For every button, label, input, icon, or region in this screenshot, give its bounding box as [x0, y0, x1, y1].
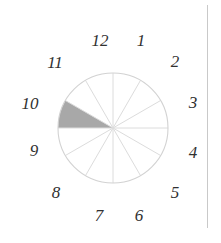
hour-label-6: 6 — [135, 207, 144, 224]
clock-sector-figure: 121234567891011 — [0, 0, 221, 243]
hour-label-7: 7 — [95, 207, 104, 224]
clock-group — [58, 73, 168, 183]
clock-diagram — [0, 0, 221, 243]
hour-label-1: 1 — [137, 32, 146, 49]
sector-spoke — [113, 80, 141, 128]
hour-label-8: 8 — [52, 184, 61, 201]
hour-label-4: 4 — [189, 144, 198, 161]
hour-label-10: 10 — [22, 95, 39, 112]
hour-label-9: 9 — [30, 142, 39, 159]
sector-spoke — [113, 101, 161, 129]
page-column-rule — [207, 5, 208, 228]
sector-spoke — [113, 128, 161, 156]
sector-spoke — [86, 128, 114, 176]
hour-label-3: 3 — [189, 94, 198, 111]
sector-spoke — [65, 128, 113, 156]
sector-spoke — [113, 128, 141, 176]
hour-label-5: 5 — [171, 184, 180, 201]
hour-label-12: 12 — [92, 32, 109, 49]
hour-label-11: 11 — [47, 54, 63, 71]
hour-label-2: 2 — [171, 53, 180, 70]
